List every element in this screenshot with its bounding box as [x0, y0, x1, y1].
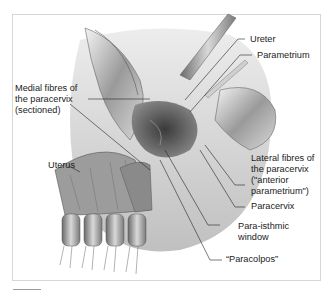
label-ureter: Ureter: [250, 34, 276, 45]
label-paracolpos: “Paracolpos”: [226, 254, 278, 265]
label-uterus: Uterus: [48, 160, 75, 171]
label-paracervix: Paracervix: [251, 201, 294, 212]
label-parametrium: Parametrium: [257, 50, 310, 61]
label-medial-fibres: Medial fibres of the paracervix (section…: [15, 83, 77, 116]
caption-rule: [13, 289, 41, 290]
label-para-isthmic-window: Para-isthmic window: [238, 221, 289, 243]
label-lateral-fibres: Lateral fibres of the paracervix ("anter…: [251, 153, 314, 197]
anatomical-illustration: [0, 0, 333, 292]
